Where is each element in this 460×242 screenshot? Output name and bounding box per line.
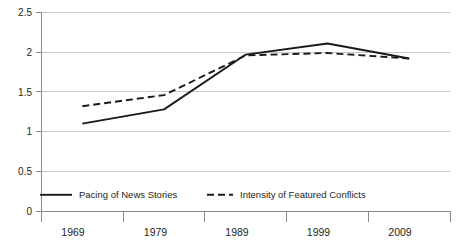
x-tick-label-1969: 1969 — [61, 226, 85, 238]
line-chart: 2.5 2 1.5 1 0.5 0 1969 1979 1989 1999 20… — [0, 0, 460, 242]
y-tick-label-1: 1 — [26, 126, 32, 137]
legend-label-pacing-of-news-stories: Pacing of News Stories — [79, 189, 177, 200]
x-tick-label-1999: 1999 — [307, 226, 331, 238]
y-tick-label-2: 2 — [26, 47, 32, 58]
y-tick-label-1.5: 1.5 — [18, 87, 32, 98]
chart-canvas: 2.5 2 1.5 1 0.5 0 1969 1979 1989 1999 20… — [0, 0, 460, 242]
x-tick-label-2009: 2009 — [388, 226, 412, 238]
x-tick-label-1989: 1989 — [225, 226, 249, 238]
y-tick-label-2.5: 2.5 — [18, 7, 32, 18]
y-tick-label-0: 0 — [26, 206, 32, 217]
y-tick-label-0.5: 0.5 — [18, 166, 32, 177]
x-tick-label-1979: 1979 — [144, 226, 168, 238]
legend-label-intensity-of-featured-conflicts: Intensity of Featured Conflicts — [240, 189, 366, 200]
chart-background — [0, 0, 460, 242]
